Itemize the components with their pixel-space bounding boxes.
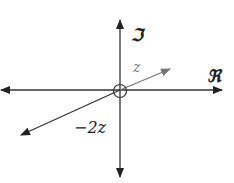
imag-axis-label: ℑ <box>131 25 146 45</box>
vector-z-label: z <box>132 59 141 75</box>
vector-minus-2z-label: −2z <box>74 118 107 137</box>
vector-z <box>120 69 170 90</box>
complex-plane-diagram: ℑ ℜ z −2z <box>0 0 234 183</box>
real-axis-label: ℜ <box>207 66 223 86</box>
